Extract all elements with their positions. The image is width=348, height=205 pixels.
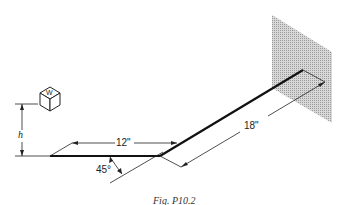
angle-label: 45° (96, 165, 111, 175)
height-label: h (18, 130, 23, 140)
long-arm (160, 70, 303, 156)
weight-label: W (46, 89, 53, 96)
diagram (0, 0, 348, 205)
figure-caption: Fig. P10.2 (153, 195, 196, 205)
short-arm-dimension: 12" (116, 138, 131, 148)
wall (272, 15, 332, 123)
long-arm-dimension: 18" (244, 121, 259, 131)
